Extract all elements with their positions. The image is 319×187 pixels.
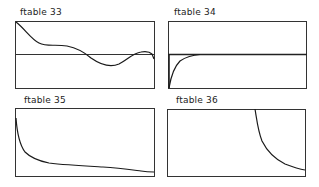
ftable-35-title: ftable 35: [24, 95, 66, 105]
ftable-36-plot: [167, 109, 306, 177]
ftable-33-curve: [16, 22, 154, 66]
ftable-34-curve: [169, 55, 200, 89]
ftable-34-plot: [168, 21, 307, 89]
ftable-33-title: ftable 33: [20, 7, 62, 17]
ftable-36-curve: [255, 109, 305, 170]
ftable-36-title: ftable 36: [176, 95, 218, 105]
ftable-33-plot: [15, 21, 155, 89]
ftable-34-title: ftable 34: [174, 7, 216, 17]
ftable-35-curve: [16, 118, 154, 172]
ftable-35-plot: [15, 108, 155, 177]
plot-frame: [168, 110, 306, 177]
